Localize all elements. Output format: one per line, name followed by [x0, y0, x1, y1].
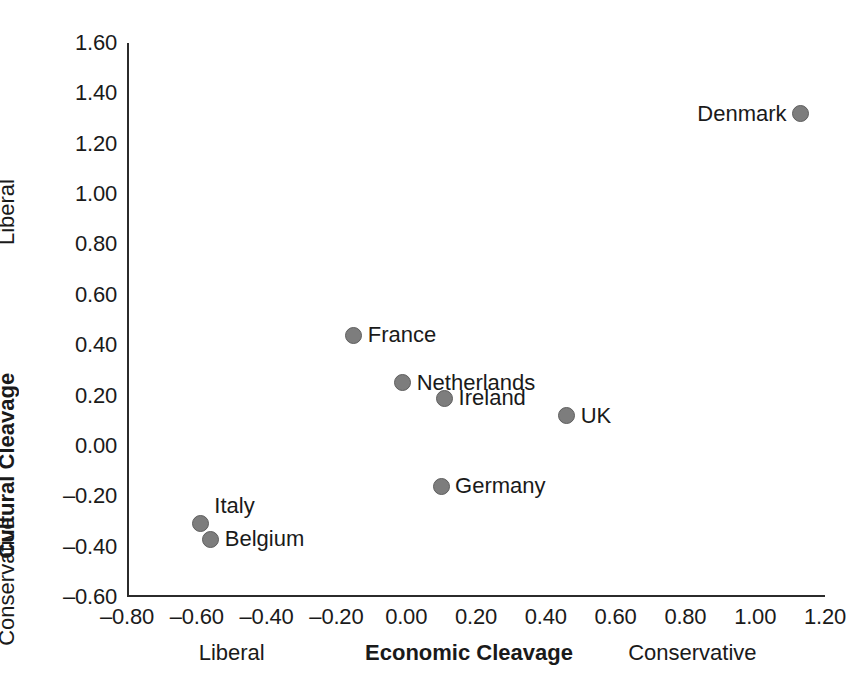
- x-axis-anchor-label: Liberal: [199, 641, 265, 665]
- data-point-label: Belgium: [225, 528, 304, 550]
- data-point-marker[interactable]: [202, 531, 219, 548]
- y-tick-label: 1.40: [75, 82, 117, 104]
- y-tick-label: 0.00: [75, 435, 117, 457]
- y-axis-anchor-label: Liberal: [0, 179, 18, 245]
- data-point-label: Denmark: [697, 103, 786, 125]
- y-axis-title: Cultural Cleavage: [0, 373, 18, 559]
- y-tick-label: –0.40: [63, 536, 117, 558]
- y-tick-label: 0.60: [75, 284, 117, 306]
- x-tick-label: 0.00: [385, 606, 427, 628]
- x-tick-label: –0.60: [170, 606, 224, 628]
- data-point-label: Ireland: [459, 387, 526, 409]
- data-point-label: Italy: [214, 495, 254, 517]
- x-tick-label: –0.80: [100, 606, 154, 628]
- x-axis-tick-labels: –0.80–0.60–0.40–0.200.000.200.400.600.80…: [0, 606, 867, 638]
- data-point-marker[interactable]: [433, 478, 450, 495]
- data-point-label: Germany: [455, 475, 545, 497]
- x-tick-label: 1.20: [804, 606, 846, 628]
- data-point-label: France: [368, 324, 436, 346]
- y-tick-label: 0.20: [75, 385, 117, 407]
- data-point-marker[interactable]: [345, 327, 362, 344]
- x-tick-label: 0.20: [455, 606, 497, 628]
- y-tick-label: 0.40: [75, 334, 117, 356]
- y-tick-label: –0.20: [63, 485, 117, 507]
- y-tick-label: 0.80: [75, 233, 117, 255]
- x-tick-label: 0.80: [664, 606, 706, 628]
- x-axis-anchor-label: Conservative: [628, 641, 756, 665]
- x-tick-label: 0.40: [525, 606, 567, 628]
- x-tick-label: –0.40: [240, 606, 294, 628]
- y-tick-label: 1.20: [75, 133, 117, 155]
- x-axis-titles: LiberalEconomic CleavageConservative: [0, 641, 867, 671]
- data-point-marker[interactable]: [792, 105, 809, 122]
- y-axis-titles: ConservativeCultural CleavageLiberal: [18, 0, 52, 687]
- y-tick-label: 1.00: [75, 183, 117, 205]
- scatter-chart-figure: –0.60–0.40–0.200.000.200.400.600.801.001…: [0, 0, 867, 687]
- x-tick-label: 1.00: [734, 606, 776, 628]
- data-point-marker[interactable]: [436, 390, 453, 407]
- y-tick-label: 1.60: [75, 32, 117, 54]
- x-axis-title: Economic Cleavage: [365, 641, 573, 665]
- x-tick-label: 0.60: [595, 606, 637, 628]
- x-tick-label: –0.20: [309, 606, 363, 628]
- data-point-label: UK: [581, 405, 612, 427]
